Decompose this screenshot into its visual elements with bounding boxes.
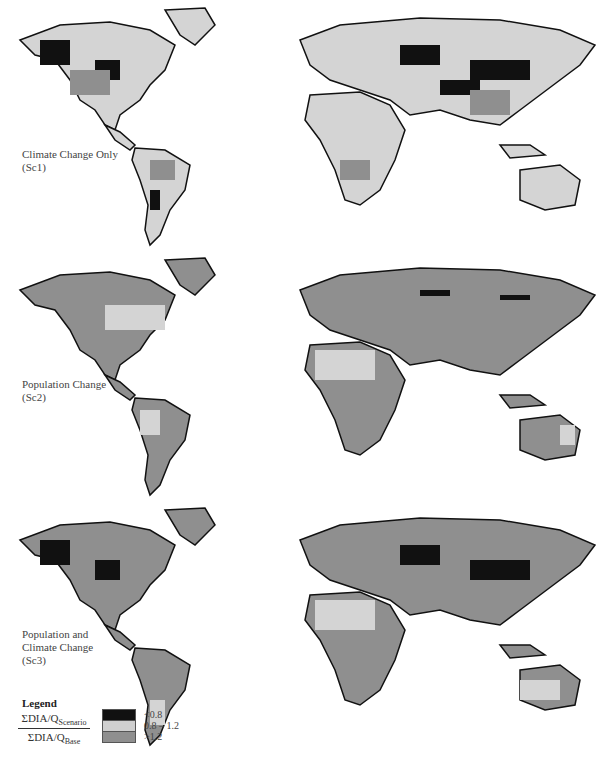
swatch-high — [102, 731, 136, 743]
ratio-denominator: ΣDIA/QBase — [18, 729, 90, 746]
map-panel-sc2: Population Change (Sc2) — [0, 250, 608, 500]
legend: Legend ΣDIA/QScenario ΣDIA/QBase <0.8 0.… — [18, 697, 258, 757]
class-label-mid: 0.8 – 1.2 — [144, 720, 179, 731]
legend-class-labels: <0.8 0.8 – 1.2 >1.2 — [144, 709, 179, 742]
class-label-high: >1.2 — [144, 731, 179, 742]
class-label-low: <0.8 — [144, 709, 179, 720]
legend-title: Legend — [22, 697, 57, 709]
legend-ratio-formula: ΣDIA/QScenario ΣDIA/QBase — [18, 712, 90, 746]
panel-label-sc2: Population Change (Sc2) — [22, 378, 106, 404]
map-panel-sc1: Climate Change Only (Sc1) — [0, 0, 608, 250]
world-map-sc1 — [0, 0, 608, 250]
panel-label-sc3: Population and Climate Change (Sc3) — [22, 628, 93, 667]
panel-label-sc1: Climate Change Only (Sc1) — [22, 148, 118, 174]
world-map-sc2 — [0, 250, 608, 500]
legend-swatches — [102, 710, 136, 743]
ratio-numerator: ΣDIA/QScenario — [18, 712, 90, 729]
